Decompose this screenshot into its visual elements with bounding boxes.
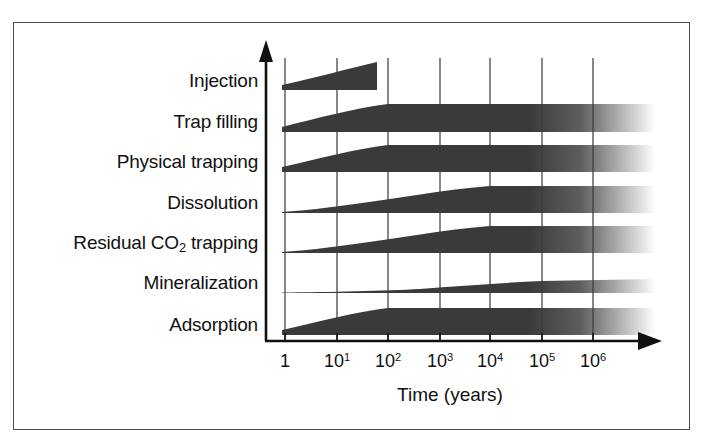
band-physical-trapping [282, 145, 655, 172]
band-dissolution [282, 186, 655, 213]
band-adsorption [282, 308, 655, 335]
figure-root: Injection Trap filling Physical trapping… [0, 0, 705, 440]
band-trap-filling [282, 104, 655, 132]
band-injection [282, 62, 377, 90]
y-axis [259, 40, 273, 341]
band-mineralization [282, 279, 655, 293]
y-axis-arrowhead [259, 40, 273, 62]
chart-canvas [0, 0, 705, 440]
band-residual-co2-trapping [282, 226, 655, 253]
